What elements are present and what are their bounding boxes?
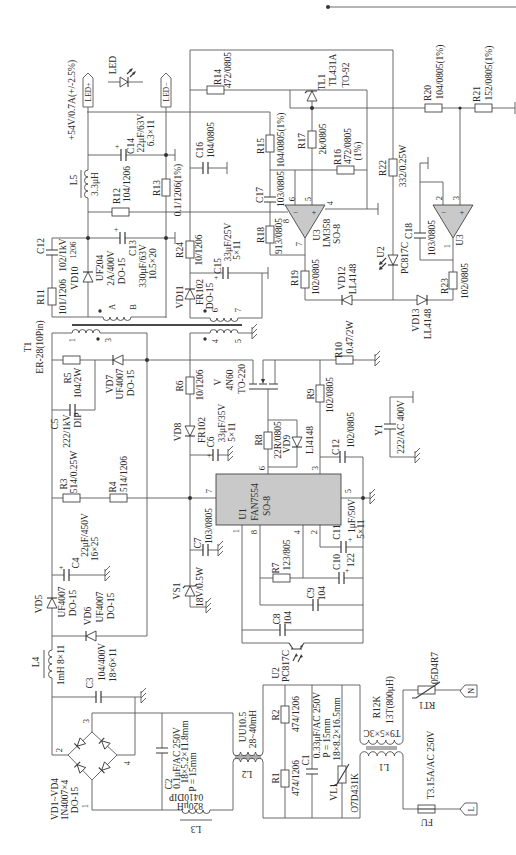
c6-value: 33μF/35V <box>217 403 227 442</box>
junction-dot <box>361 496 365 500</box>
u3a-package: SO-8 <box>332 224 342 244</box>
c17-ref: C17 <box>255 187 265 203</box>
bridge-rectifier-icon <box>74 738 110 773</box>
c14-ref: C14 <box>126 138 136 154</box>
u3b-pin-2: 2 <box>434 196 444 200</box>
u3b-pin-3: 3 <box>451 196 461 200</box>
c13-ref: C13 <box>128 240 138 256</box>
l4-value: 1mH 8×11 <box>56 644 66 685</box>
c14-polarity: + <box>115 142 119 151</box>
c8-value: 104 <box>283 611 293 626</box>
inductor-l4-coil <box>44 650 52 678</box>
t1-pin-7: 7 <box>233 308 243 312</box>
junction-dot <box>86 236 90 240</box>
resistor-r14 <box>207 86 224 94</box>
led-minus-label: LED− <box>162 83 171 102</box>
r5-value: 104/2W <box>73 368 83 399</box>
choke-l2-coil <box>233 752 263 762</box>
mosfet-v-part: 4N60 <box>225 369 235 390</box>
r9-ref: R9 <box>306 388 316 399</box>
capacitor-c16 <box>203 162 208 174</box>
winding-polarity-dot <box>203 337 206 340</box>
chassis-ground-icon <box>105 566 110 581</box>
r13-value: 0.1/1206(1%) <box>173 164 184 217</box>
c7-value: 103/0805 <box>204 508 214 544</box>
l5-value: 3.3μH <box>90 172 100 196</box>
c13-polarity: + <box>114 225 118 234</box>
c3-value: 104/400V <box>97 643 107 681</box>
c11-polarity: + <box>348 535 352 544</box>
r7-value: 123/805 <box>282 539 292 570</box>
u3a-part: LM358 <box>322 219 332 248</box>
vd11-part: FR102 <box>195 279 205 305</box>
l4-ref: L4 <box>31 656 41 667</box>
vd11-package: DO-15 <box>205 283 215 310</box>
u3b-minus-sign: − <box>442 207 447 217</box>
c3-ref: C3 <box>85 677 95 688</box>
capacitor-c18 <box>414 233 426 238</box>
c5-value: 222/1kV <box>62 414 72 447</box>
connector-l-label: L <box>466 806 476 811</box>
capacitor-y1 <box>384 424 396 429</box>
vd10-rating: 2A/400V <box>106 250 116 286</box>
c3-size: 18×6×11 <box>108 648 118 682</box>
r16-tolerance: (1%) <box>353 142 364 161</box>
diode-vd9-icon <box>292 437 302 447</box>
c18-ref: C18 <box>404 223 414 239</box>
r16-value: 472/0805 <box>343 128 353 164</box>
led-label: LED <box>108 56 118 75</box>
mosfet-v-ref: V <box>213 378 223 385</box>
u3b-plus-sign: + <box>460 207 465 217</box>
r3-ref: R3 <box>59 478 69 489</box>
shunt-regulator-tl1-icon <box>305 91 317 101</box>
diode-vd6-icon <box>86 631 96 641</box>
r4-ref: R4 <box>108 481 118 492</box>
r19-ref: R19 <box>290 270 300 286</box>
r15-value: 104/0805(1%) <box>276 113 287 168</box>
y1-ref: Y1 <box>374 424 384 436</box>
r12-ref: R12 <box>112 188 122 204</box>
r18-ref: R18 <box>256 227 266 243</box>
vd5-package: DO-15 <box>68 590 78 617</box>
diode-vd5-icon <box>47 598 57 608</box>
resistor-r19 <box>301 271 309 288</box>
junction-dot <box>310 106 314 110</box>
r19-value: 102/0805 <box>311 259 321 295</box>
resistor-r4 <box>110 494 127 502</box>
r22-value: 332/0.25W <box>398 145 408 188</box>
c6-polarity: + <box>207 451 211 460</box>
capacitor-c1 <box>306 769 318 774</box>
l2-part: UU10.5 <box>238 712 248 743</box>
t1-pin-a: A <box>107 303 117 310</box>
junction-dot <box>458 106 461 109</box>
vd13-ref: VD13 <box>411 308 421 331</box>
vd9-ref: VD9 <box>282 435 292 454</box>
c12-1kv-value: 102/1kV <box>58 238 68 271</box>
c7-ref: C7 <box>193 537 203 548</box>
diode-vd7-icon <box>113 355 123 365</box>
led-icon <box>120 68 136 87</box>
t1-pin-b: B <box>128 304 138 310</box>
u1-pin-8: 8 <box>249 530 259 534</box>
c9-value: 104 <box>317 586 327 601</box>
vd10-part: UF204 <box>95 255 105 282</box>
vd7-ref: VD7 <box>105 375 115 394</box>
r14-ref: R14 <box>213 69 223 85</box>
bridge-pin-4: 4 <box>122 760 132 765</box>
resistor-r24 <box>186 241 194 258</box>
c10-ref: C10 <box>332 554 342 570</box>
junction-dot <box>188 496 192 500</box>
c12-0805-ref: C12 <box>331 439 341 455</box>
resistor-r9 <box>316 385 324 402</box>
c17-value: 103/0805 <box>276 171 286 207</box>
r20-value: 104/0805(1%) <box>435 45 446 100</box>
chassis-ground-icon <box>141 688 146 703</box>
vd12-part: LL4148 <box>348 263 358 294</box>
c4-value: 22μF/450V <box>80 513 90 557</box>
c5-ref: C5 <box>50 418 60 429</box>
chassis-ground-icon <box>252 324 257 339</box>
c13-value: 330μF/63V <box>138 244 148 288</box>
r1-value: 474/1206 <box>291 760 301 796</box>
capacitor-c12-1kv <box>46 250 58 255</box>
l1-ref: L1 <box>378 762 389 772</box>
